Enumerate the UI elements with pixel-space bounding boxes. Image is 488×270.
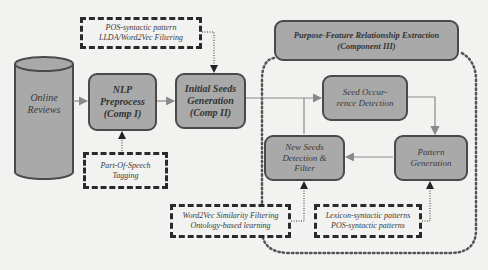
component3-header: Purpose-Feature Relationship Extraction … <box>274 20 459 61</box>
initial-seeds-node: Initial Seeds Generation (Comp II) <box>175 73 246 129</box>
lexicon-annotation: Lexicon-syntactic patterns POS-syntactic… <box>314 204 422 238</box>
new-seeds-node: New Seeds Detection & Filter <box>264 135 345 181</box>
pos-tagging-annotation: Part-Of-Speech Tagging <box>83 152 168 189</box>
word2vec-line2: Ontology-based learning <box>190 221 270 231</box>
nlp-line2: Preprocess <box>100 96 145 108</box>
lexicon-line2: POS-syntactic patterns <box>331 221 405 231</box>
word2vec-line1: Word2Vec Similarity Filtering <box>183 211 279 221</box>
pattern-line1: Pattern <box>418 147 445 158</box>
seed-occurrence-node: Seed Occur- rence Detection <box>322 75 408 121</box>
initial-seeds-line1: Initial Seeds <box>185 83 236 95</box>
initial-seeds-line3: (Comp II) <box>190 107 231 119</box>
online-reviews-line2: Reviews <box>28 104 61 116</box>
online-reviews-label: Online Reviews <box>15 84 73 124</box>
new-seeds-line3: Filter <box>294 163 315 174</box>
seed-occurrence-line2: rence Detection <box>337 98 394 109</box>
nlp-line3: (Comp I) <box>104 108 142 120</box>
pos-lda-annotation: POS-syntactic pattern LLDA/Word2Vec Filt… <box>80 17 202 49</box>
online-reviews-line1: Online <box>30 92 57 104</box>
nlp-line1: NLP <box>113 84 132 96</box>
pos-lda-line2: LLDA/Word2Vec Filtering <box>99 33 183 43</box>
component3-line2: (Component III) <box>337 41 395 51</box>
pos-tagging-line2: Tagging <box>113 171 139 181</box>
component3-line1: Purpose-Feature Relationship Extraction <box>294 30 439 40</box>
initial-seeds-line2: Generation <box>187 95 234 107</box>
pattern-line2: Generation <box>411 158 452 169</box>
lexicon-line1: Lexicon-syntactic patterns <box>326 211 411 221</box>
pattern-generation-node: Pattern Generation <box>394 135 468 181</box>
nlp-preprocess-node: NLP Preprocess (Comp I) <box>88 73 157 131</box>
new-seeds-line2: Detection & <box>282 153 326 164</box>
seed-occurrence-line1: Seed Occur- <box>343 87 388 98</box>
new-seeds-line1: New Seeds <box>285 142 324 153</box>
pos-tagging-line1: Part-Of-Speech <box>100 161 150 171</box>
pos-lda-line1: POS-syntactic pattern <box>106 23 177 33</box>
word2vec-annotation: Word2Vec Similarity Filtering Ontology-b… <box>170 204 291 238</box>
